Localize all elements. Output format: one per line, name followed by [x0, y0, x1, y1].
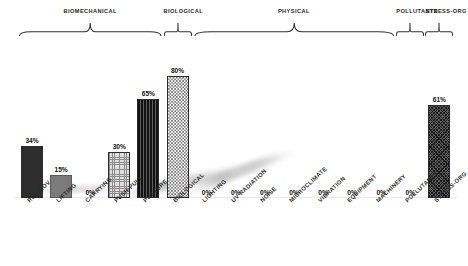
bar-value-label: 80%	[160, 67, 196, 74]
bar-value-label: 30%	[101, 143, 137, 150]
plot-area: 34%15%0%30%65%80%0%0%0%0%0%0%0%0%61%	[0, 46, 463, 198]
bar	[137, 99, 159, 198]
bar-value-label: 61%	[421, 96, 457, 103]
category-group-bracket	[193, 22, 396, 36]
category-group: PHYSICAL	[193, 0, 396, 46]
bar-column: 80%	[165, 46, 191, 198]
bar-column: 30%	[106, 46, 132, 198]
category-group: STRESS-ORG	[425, 0, 453, 46]
bar	[167, 76, 189, 198]
category-group-label: PHYSICAL	[193, 8, 396, 14]
bar-value-label: 15%	[43, 166, 79, 173]
category-group-bracket	[18, 22, 162, 36]
bar-column: 15%	[48, 46, 74, 198]
bar-column: 0%	[223, 46, 249, 198]
category-group: BIOMECHANICAL	[18, 0, 162, 46]
category-group-label: BIOMECHANICAL	[18, 8, 162, 14]
category-group-bracket	[164, 22, 192, 36]
category-group-bracket	[425, 22, 453, 36]
bar-value-label: 65%	[130, 90, 166, 97]
category-group-band: BIOMECHANICALBIOLOGICALPHYSICALPOLLUTANT…	[0, 0, 463, 46]
category-group-bracket	[396, 22, 424, 36]
bar-column: 34%	[19, 46, 45, 198]
category-group: POLLUTANTS	[396, 0, 424, 46]
category-group: BIOLOGICAL	[164, 0, 192, 46]
category-group-label: BIOLOGICAL	[164, 8, 192, 14]
x-axis-tick-labels: REP MOVLIFTINGCARRYINGPUSH-PULLPOSTUREBI…	[0, 198, 463, 266]
category-group-label: STRESS-ORG	[425, 8, 453, 14]
category-group-label: POLLUTANTS	[396, 8, 424, 14]
bar-column: 0%	[281, 46, 307, 198]
bar-column: 0%	[77, 46, 103, 198]
bar-value-label: 34%	[14, 137, 50, 144]
